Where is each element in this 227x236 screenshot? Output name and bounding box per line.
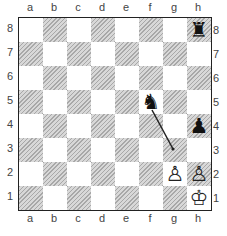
- square-g1[interactable]: [163, 186, 187, 210]
- square-b3[interactable]: [43, 138, 67, 162]
- square-g6[interactable]: [163, 66, 187, 90]
- square-b4[interactable]: [43, 114, 67, 138]
- square-d3[interactable]: [91, 138, 115, 162]
- square-e2[interactable]: [115, 162, 139, 186]
- square-d4[interactable]: [91, 114, 115, 138]
- rank-label-1: 1: [5, 190, 15, 202]
- file-label-f: f: [138, 1, 162, 13]
- square-a2[interactable]: [19, 162, 43, 186]
- file-label-e: e: [114, 1, 138, 13]
- square-d5[interactable]: [91, 90, 115, 114]
- square-a5[interactable]: [19, 90, 43, 114]
- square-c6[interactable]: [67, 66, 91, 90]
- white-pawn-icon[interactable]: ♙: [187, 162, 211, 186]
- square-d7[interactable]: [91, 42, 115, 66]
- square-e1[interactable]: [115, 186, 139, 210]
- square-g7[interactable]: [163, 42, 187, 66]
- square-e6[interactable]: [115, 66, 139, 90]
- square-g5[interactable]: [163, 90, 187, 114]
- file-label-g: g: [162, 212, 186, 224]
- square-e7[interactable]: [115, 42, 139, 66]
- square-a8[interactable]: [19, 18, 43, 42]
- square-g8[interactable]: [163, 18, 187, 42]
- square-h3[interactable]: [187, 138, 211, 162]
- square-h1[interactable]: ♔: [187, 186, 211, 210]
- square-e5[interactable]: [115, 90, 139, 114]
- file-label-f: f: [138, 212, 162, 224]
- square-b7[interactable]: [43, 42, 67, 66]
- square-c5[interactable]: [67, 90, 91, 114]
- rank-label-5: 5: [211, 96, 221, 108]
- square-f6[interactable]: [139, 66, 163, 90]
- square-a3[interactable]: [19, 138, 43, 162]
- file-label-h: h: [186, 212, 210, 224]
- file-label-c: c: [66, 212, 90, 224]
- rank-label-2: 2: [211, 168, 221, 180]
- chess-board: ♜♞♟♙♙♔: [18, 17, 212, 211]
- square-a4[interactable]: [19, 114, 43, 138]
- square-h8[interactable]: ♜: [187, 18, 211, 42]
- square-g4[interactable]: [163, 114, 187, 138]
- square-b1[interactable]: [43, 186, 67, 210]
- square-f3[interactable]: [139, 138, 163, 162]
- square-f5[interactable]: ♞: [139, 90, 163, 114]
- square-f7[interactable]: [139, 42, 163, 66]
- rank-label-7: 7: [5, 46, 15, 58]
- square-f8[interactable]: [139, 18, 163, 42]
- black-rook-icon[interactable]: ♜: [187, 18, 211, 42]
- square-e4[interactable]: [115, 114, 139, 138]
- square-b8[interactable]: [43, 18, 67, 42]
- file-label-e: e: [114, 212, 138, 224]
- square-b6[interactable]: [43, 66, 67, 90]
- file-label-h: h: [186, 1, 210, 13]
- square-c4[interactable]: [67, 114, 91, 138]
- square-a7[interactable]: [19, 42, 43, 66]
- rank-label-8: 8: [5, 22, 15, 34]
- square-d6[interactable]: [91, 66, 115, 90]
- square-f1[interactable]: [139, 186, 163, 210]
- square-g3[interactable]: [163, 138, 187, 162]
- square-c1[interactable]: [67, 186, 91, 210]
- square-c2[interactable]: [67, 162, 91, 186]
- file-label-a: a: [18, 1, 42, 13]
- square-d1[interactable]: [91, 186, 115, 210]
- file-label-b: b: [42, 1, 66, 13]
- square-h7[interactable]: [187, 42, 211, 66]
- rank-label-3: 3: [211, 144, 221, 156]
- rank-label-4: 4: [211, 120, 221, 132]
- square-e3[interactable]: [115, 138, 139, 162]
- white-pawn-icon[interactable]: ♙: [163, 162, 187, 186]
- square-f4[interactable]: [139, 114, 163, 138]
- square-c8[interactable]: [67, 18, 91, 42]
- square-d8[interactable]: [91, 18, 115, 42]
- square-a1[interactable]: [19, 186, 43, 210]
- square-h5[interactable]: [187, 90, 211, 114]
- square-c7[interactable]: [67, 42, 91, 66]
- square-f2[interactable]: [139, 162, 163, 186]
- rank-label-7: 7: [211, 48, 221, 60]
- black-knight-icon[interactable]: ♞: [139, 90, 163, 114]
- rank-label-6: 6: [211, 72, 221, 84]
- file-label-a: a: [18, 212, 42, 224]
- square-h2[interactable]: ♙: [187, 162, 211, 186]
- black-pawn-icon[interactable]: ♟: [187, 114, 211, 138]
- file-label-c: c: [66, 1, 90, 13]
- square-d2[interactable]: [91, 162, 115, 186]
- square-a6[interactable]: [19, 66, 43, 90]
- rank-label-5: 5: [5, 94, 15, 106]
- rank-label-3: 3: [5, 142, 15, 154]
- rank-label-4: 4: [5, 118, 15, 130]
- file-label-d: d: [90, 1, 114, 13]
- rank-label-6: 6: [5, 70, 15, 82]
- square-h4[interactable]: ♟: [187, 114, 211, 138]
- square-h6[interactable]: [187, 66, 211, 90]
- square-b5[interactable]: [43, 90, 67, 114]
- square-c3[interactable]: [67, 138, 91, 162]
- square-b2[interactable]: [43, 162, 67, 186]
- file-label-d: d: [90, 212, 114, 224]
- white-king-icon[interactable]: ♔: [187, 186, 211, 210]
- rank-label-1: 1: [211, 192, 221, 204]
- square-g2[interactable]: ♙: [163, 162, 187, 186]
- square-e8[interactable]: [115, 18, 139, 42]
- rank-label-2: 2: [5, 166, 15, 178]
